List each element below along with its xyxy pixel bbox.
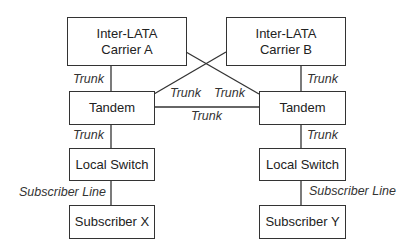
label-trunk-carrier-b-tandem: Trunk	[307, 72, 338, 86]
tandem-right-label: Tandem	[279, 100, 325, 116]
label-trunk-tandem-local-right: Trunk	[307, 128, 338, 142]
node-local-switch-right: Local Switch	[259, 148, 346, 181]
label-trunk-tandem-local-left: Trunk	[73, 128, 104, 142]
node-tandem-left: Tandem	[69, 91, 155, 125]
carrier-a-line1: Inter-LATA	[97, 26, 158, 42]
connection-lines	[0, 0, 415, 250]
label-subscriber-line-right: Subscriber Line	[309, 184, 396, 198]
subscriber-y-label: Subscriber Y	[265, 214, 339, 230]
carrier-b-line2: Carrier B	[256, 42, 317, 58]
label-trunk-diag-left: Trunk	[170, 86, 201, 100]
local-switch-left-label: Local Switch	[76, 157, 149, 173]
label-trunk-diag-right: Trunk	[214, 86, 245, 100]
node-subscriber-y: Subscriber Y	[259, 205, 346, 239]
local-switch-right-label: Local Switch	[266, 157, 339, 173]
node-carrier-b: Inter-LATA Carrier B	[226, 17, 346, 66]
carrier-a-line2: Carrier A	[97, 42, 158, 58]
label-trunk-carrier-a-tandem: Trunk	[73, 72, 104, 86]
carrier-b-line1: Inter-LATA	[256, 26, 317, 42]
label-subscriber-line-left: Subscriber Line	[19, 185, 106, 199]
subscriber-x-label: Subscriber X	[75, 214, 149, 230]
node-local-switch-left: Local Switch	[69, 148, 155, 181]
node-tandem-right: Tandem	[259, 91, 346, 125]
tandem-left-label: Tandem	[89, 100, 135, 116]
node-carrier-a: Inter-LATA Carrier A	[67, 17, 187, 66]
label-trunk-tandem-tandem: Trunk	[191, 109, 222, 123]
node-subscriber-x: Subscriber X	[69, 205, 155, 239]
